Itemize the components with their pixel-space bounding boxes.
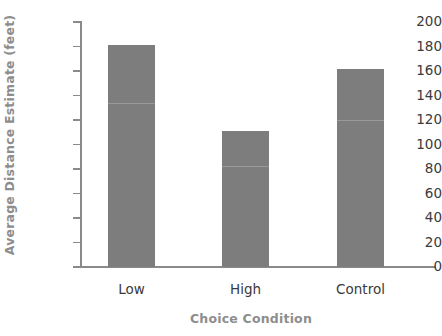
y-axis-tick [73, 266, 80, 268]
bar [337, 69, 384, 267]
x-axis-category-label: High [192, 281, 299, 297]
bar-seam-line [337, 120, 384, 121]
y-axis-tick [73, 144, 80, 146]
plot-area [80, 22, 432, 267]
y-axis-tick [73, 70, 80, 72]
y-axis-tick [73, 21, 80, 23]
y-axis-tick [73, 242, 80, 244]
x-axis-title: Choice Condition [60, 311, 442, 326]
y-axis-tick [73, 46, 80, 48]
bar-chart: Average Distance Estimate (feet) 0204060… [0, 0, 442, 336]
y-axis-tick [73, 193, 80, 195]
y-axis-tick [73, 119, 80, 121]
bar [108, 45, 155, 267]
bar-seam-line [108, 103, 155, 104]
y-axis-tick [73, 168, 80, 170]
bar-seam-line [222, 166, 269, 167]
bar [222, 131, 269, 267]
x-axis-category-label: Control [307, 281, 414, 297]
y-axis-tick [73, 217, 80, 219]
y-axis-tick [73, 95, 80, 97]
x-axis-category-label: Low [78, 281, 185, 297]
y-axis-title: Average Distance Estimate (feet) [0, 0, 18, 270]
